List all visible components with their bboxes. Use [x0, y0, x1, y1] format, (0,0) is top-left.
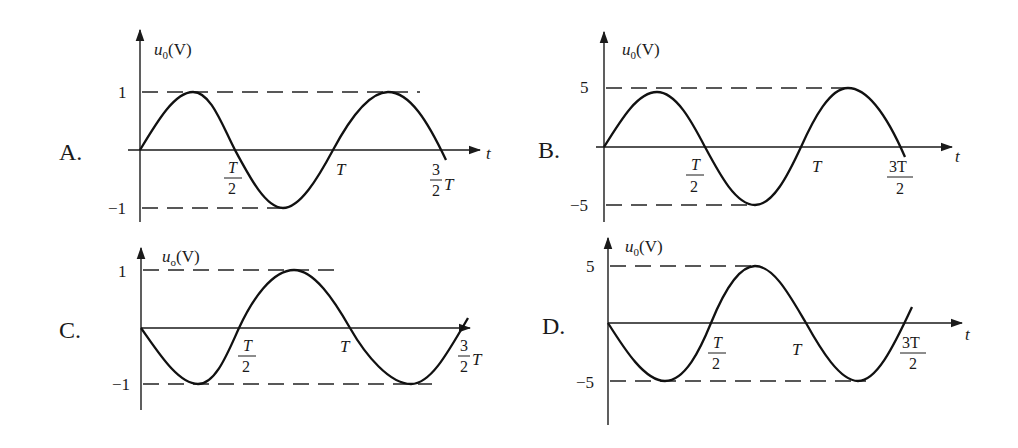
- y-tick-max-c: 1: [118, 262, 127, 281]
- waveform-c: [141, 270, 468, 384]
- y-axis-label-b: u0(V): [622, 40, 660, 61]
- x-tick-period-d: T: [792, 340, 803, 359]
- y-tick-max-a: 1: [118, 83, 127, 102]
- y-axis-label-a: u0(V): [154, 40, 192, 61]
- figure-canvas: A. u0(V) t 1 −1 T 2 T 3 2 T B. u0(V) t 5: [0, 0, 1018, 448]
- x-tick-period-b: T: [812, 157, 823, 176]
- y-tick-min-d: −5: [576, 373, 594, 392]
- panel-d: D. u0(V) t 5 −5 T 2 T 3T 2: [542, 237, 971, 425]
- svg-text:2: 2: [690, 178, 698, 195]
- svg-text:2: 2: [242, 358, 250, 375]
- y-axis-label-d: u0(V): [625, 237, 663, 258]
- y-tick-min-b: −5: [570, 196, 588, 215]
- svg-text:2: 2: [432, 182, 440, 199]
- x-tick-period-a: T: [336, 160, 347, 179]
- x-tick-half-period-a: T 2: [224, 159, 242, 197]
- svg-text:T: T: [713, 334, 723, 351]
- panel-a: A. u0(V) t 1 −1 T 2 T 3 2 T: [59, 30, 492, 222]
- svg-text:2: 2: [228, 180, 236, 197]
- svg-text:2: 2: [896, 180, 904, 197]
- x-tick-three-half-period-d: 3T 2: [900, 334, 926, 372]
- x-axis-label-d: t: [965, 325, 971, 344]
- option-label-c: C.: [59, 317, 81, 343]
- x-tick-three-half-period-b: 3T 2: [887, 158, 913, 197]
- svg-text:3T: 3T: [902, 334, 920, 351]
- x-axis-label-b: t: [955, 147, 961, 166]
- svg-text:T: T: [472, 350, 483, 369]
- svg-text:2: 2: [712, 355, 720, 372]
- x-tick-half-period-b: T 2: [686, 156, 704, 195]
- svg-text:3: 3: [432, 161, 440, 178]
- y-tick-min-c: −1: [112, 375, 130, 394]
- x-tick-three-half-period-a: 3 2 T: [430, 161, 455, 199]
- option-label-b: B.: [538, 137, 560, 163]
- svg-text:T: T: [691, 156, 701, 173]
- svg-text:2: 2: [460, 358, 468, 375]
- y-tick-max-b: 5: [580, 78, 589, 97]
- y-axis-label-c: uo(V): [162, 247, 200, 268]
- y-tick-max-d: 5: [586, 257, 595, 276]
- x-tick-half-period-c: T 2: [238, 337, 256, 375]
- y-tick-min-a: −1: [108, 199, 126, 218]
- panel-b: B. u0(V) t 5 −5 T 2 T 3T 2: [538, 32, 961, 222]
- panel-c: C. uo(V) 1 −1 T 2 T 3 2 T: [59, 247, 483, 410]
- svg-text:3: 3: [460, 337, 468, 354]
- svg-text:T: T: [228, 159, 238, 176]
- svg-text:T: T: [444, 175, 455, 194]
- x-tick-three-half-period-c: 3 2 T: [458, 337, 483, 375]
- svg-text:3T: 3T: [889, 158, 907, 175]
- x-tick-half-period-d: T 2: [708, 334, 726, 372]
- option-label-a: A.: [59, 139, 82, 165]
- svg-text:T: T: [243, 337, 253, 354]
- option-label-d: D.: [542, 313, 565, 339]
- x-tick-period-c: T: [340, 337, 351, 356]
- x-axis-label-a: t: [486, 144, 492, 163]
- svg-text:2: 2: [909, 355, 917, 372]
